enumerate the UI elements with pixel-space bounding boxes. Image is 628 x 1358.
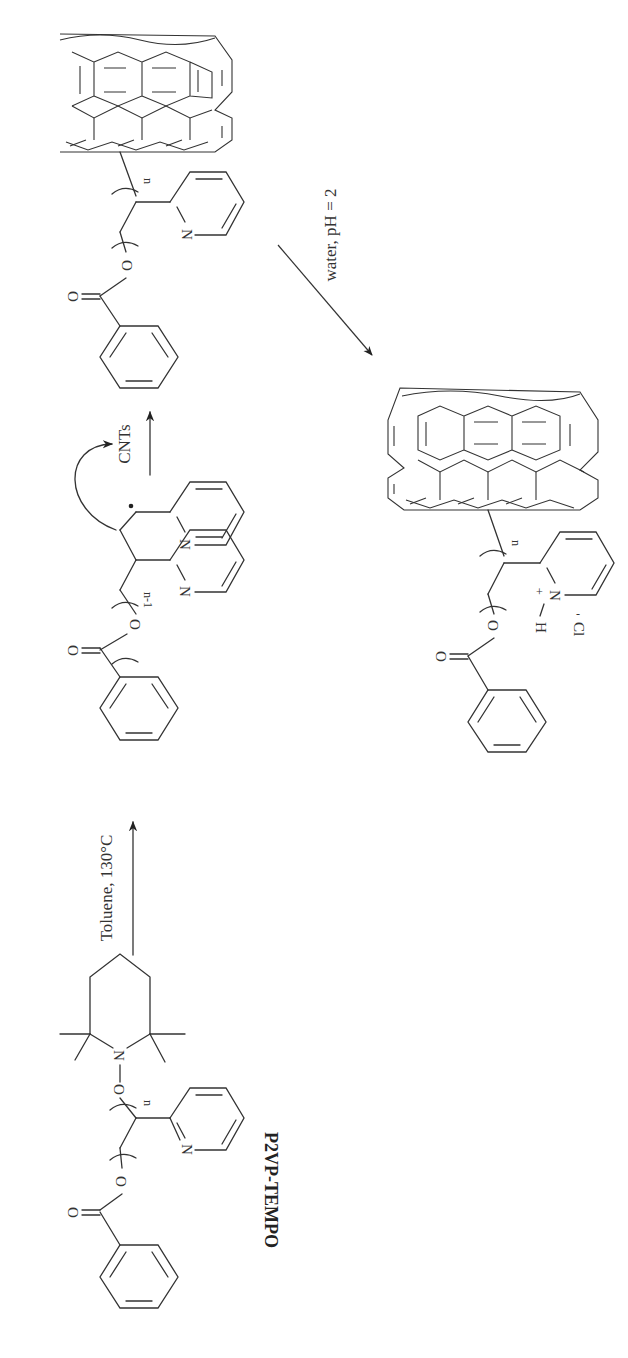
- oxygen-atom: O: [127, 619, 143, 630]
- p2vp-tempo-molecule: N O n O O N P2VP-TEMPO: [60, 954, 281, 1308]
- pyridinium-nitrogen: N: [547, 590, 563, 601]
- benzene-ring: [100, 326, 178, 388]
- reaction-arrow-1: Toluene, 130°C: [97, 822, 133, 955]
- nitrogen-atom: N: [111, 1050, 127, 1061]
- radical-dot: [129, 504, 134, 509]
- pyridine-nitrogen: N: [177, 539, 193, 550]
- carbon-nanotube: [388, 388, 598, 510]
- repeat-bracket: [110, 1104, 136, 1110]
- carbonyl-oxygen: O: [65, 1207, 81, 1218]
- chloride-ion: Cl: [571, 622, 587, 636]
- step-2-conditions: CNTs: [115, 424, 134, 463]
- tempo-ring: [60, 954, 185, 1082]
- pyridine-ring: [170, 482, 244, 545]
- carbonyl-oxygen: O: [65, 291, 81, 302]
- pyridinium-ring: [540, 532, 614, 595]
- repeat-n-label: n: [141, 178, 155, 184]
- oxygen-atom: O: [119, 260, 135, 271]
- pyridine-nitrogen: N: [177, 586, 193, 597]
- step-1-conditions: Toluene, 130°C: [97, 835, 116, 942]
- pyridine-ring: [170, 172, 244, 235]
- repeat-n-minus-1-label: n-1: [141, 592, 155, 608]
- positive-charge: +: [536, 585, 543, 599]
- reaction-arrow-3: water, pH = 2: [278, 189, 372, 355]
- step-3-conditions: water, pH = 2: [321, 189, 340, 282]
- benzene-ring: [468, 690, 546, 752]
- curved-attack-arrow: [75, 444, 116, 530]
- radical-intermediate: O O n-1 N N: [65, 444, 244, 740]
- carbonyl-oxygen: O: [433, 651, 449, 662]
- repeat-bracket: [112, 658, 138, 664]
- oxygen-atom: O: [111, 1084, 127, 1095]
- negative-charge: -: [576, 607, 580, 621]
- repeat-bracket: [112, 602, 138, 608]
- reaction-scheme: N O n O O N P2VP-TEMPO: [0, 0, 628, 1358]
- carbonyl-oxygen: O: [65, 645, 81, 656]
- repeat-n-label: n: [141, 1100, 155, 1106]
- benzene-ring: [100, 677, 178, 740]
- pyridine-ring: [170, 1088, 244, 1150]
- repeat-bracket: [110, 1154, 136, 1160]
- graft-bond: [488, 510, 504, 556]
- pyridine-nitrogen: N: [179, 229, 195, 240]
- protonated-product: n + N H Cl - O O: [388, 388, 614, 752]
- pyridine-nitrogen: N: [179, 1144, 195, 1155]
- cnt-p2vp-product: n N O O: [60, 34, 244, 388]
- benzene-ring: [100, 1245, 178, 1308]
- oxygen-atom: O: [113, 1176, 129, 1187]
- reaction-arrow-2: CNTs: [115, 412, 150, 475]
- reagent-label: P2VP-TEMPO: [261, 1132, 281, 1248]
- carbon-nanotube: [60, 34, 232, 152]
- oxygen-atom: O: [485, 620, 501, 631]
- hydrogen-atom: H: [533, 622, 549, 633]
- repeat-n-label: n: [509, 540, 523, 546]
